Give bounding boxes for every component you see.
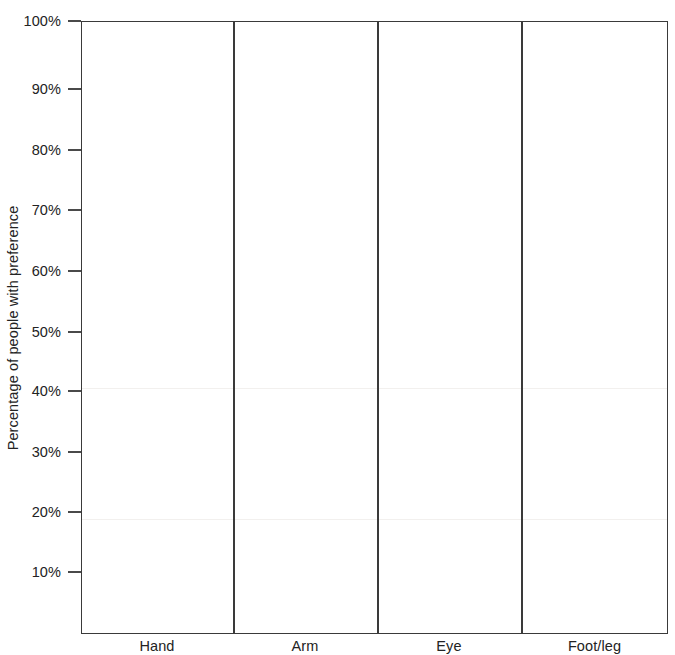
y-axis-tick-label: 10%: [32, 564, 61, 579]
y-axis-tick-mark-icon: [68, 390, 81, 391]
x-axis-tick-label-arm: Arm: [233, 636, 377, 655]
y-axis-tick-mark-icon: [68, 209, 81, 210]
y-axis-tick-mark-icon: [68, 88, 81, 89]
y-axis-tick-mark-icon: [68, 331, 81, 332]
y-axis-tick-label: 50%: [32, 324, 61, 339]
bar-chart-figure: Percentage of people with preference 100…: [0, 0, 675, 655]
x-axis-tick-label-hand: Hand: [81, 636, 233, 655]
y-axis-tick-group: 100% 90% 80% 70% 60% 50% 40% 30%: [0, 0, 81, 655]
y-axis-tick-mark-icon: [68, 451, 81, 452]
category-divider: [233, 22, 235, 633]
x-axis-tick-label-eye: Eye: [377, 636, 521, 655]
y-axis-tick-mark-icon: [68, 270, 81, 271]
y-axis-tick-label: 80%: [32, 142, 61, 157]
plot-area: [81, 21, 668, 634]
y-axis-tick-label: 90%: [32, 81, 61, 96]
scan-artifact: [82, 519, 667, 520]
y-axis-tick-mark-icon: [68, 20, 81, 21]
y-axis-tick-label: 40%: [32, 383, 61, 398]
x-axis-tick-label-footleg: Foot/leg: [521, 636, 668, 655]
scan-artifact: [82, 388, 667, 389]
y-axis-tick-label: 100%: [24, 13, 62, 28]
category-divider: [521, 22, 523, 633]
category-divider: [377, 22, 379, 633]
y-axis-tick-mark-icon: [68, 511, 81, 512]
y-axis-tick-label: 30%: [32, 444, 61, 459]
y-axis-tick-label: 70%: [32, 202, 61, 217]
y-axis-tick-mark-icon: [68, 571, 81, 572]
x-axis-tick-group: Hand Arm Eye Foot/leg: [81, 636, 668, 655]
y-axis-tick-mark-icon: [68, 149, 81, 150]
y-axis-tick-label: 60%: [32, 263, 61, 278]
y-axis-tick-label: 20%: [32, 504, 61, 519]
